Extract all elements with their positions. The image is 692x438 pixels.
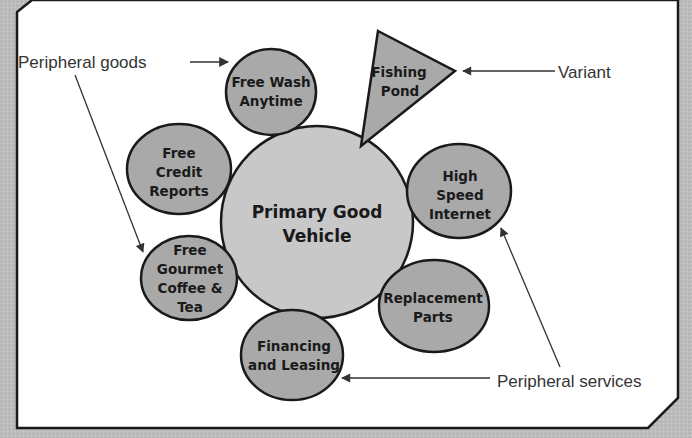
svg-text:and Leasing: and Leasing bbox=[248, 357, 340, 373]
svg-text:Pond: Pond bbox=[381, 83, 419, 99]
high-speed-internet-node: High Speed Internet bbox=[407, 144, 511, 238]
svg-text:Free: Free bbox=[173, 242, 206, 258]
replacement-parts-node: Replacement Parts bbox=[379, 260, 489, 352]
diagram-canvas: Primary Good Vehicle Free Wash Anytime F… bbox=[0, 0, 692, 438]
svg-text:Fishing: Fishing bbox=[371, 64, 426, 80]
svg-text:Parts: Parts bbox=[413, 309, 453, 325]
variant-label: Variant bbox=[558, 63, 611, 82]
svg-text:Gourmet: Gourmet bbox=[157, 261, 224, 277]
svg-text:Anytime: Anytime bbox=[239, 93, 302, 109]
svg-text:Speed: Speed bbox=[436, 187, 483, 203]
financing-leasing-node: Financing and Leasing bbox=[241, 310, 343, 400]
svg-text:Financing: Financing bbox=[257, 338, 331, 354]
svg-text:Internet: Internet bbox=[429, 206, 492, 222]
svg-text:Tea: Tea bbox=[177, 299, 203, 315]
center-line-2: Vehicle bbox=[282, 226, 351, 246]
peripheral-services-label: Peripheral services bbox=[497, 372, 642, 391]
center-line-1: Primary Good bbox=[252, 202, 383, 222]
peripheral-goods-label: Peripheral goods bbox=[18, 53, 147, 72]
free-coffee-tea-node: Free Gourmet Coffee & Tea bbox=[141, 236, 237, 320]
svg-text:Primary Good: Primary Good bbox=[252, 202, 383, 222]
svg-text:Credit: Credit bbox=[156, 164, 203, 180]
free-wash-node: Free Wash Anytime bbox=[226, 49, 316, 135]
svg-text:Vehicle: Vehicle bbox=[282, 226, 351, 246]
free-credit-reports-node: Free Credit Reports bbox=[127, 124, 231, 214]
svg-text:Coffee &: Coffee & bbox=[158, 280, 223, 296]
svg-text:Free Wash: Free Wash bbox=[231, 74, 310, 90]
svg-text:High: High bbox=[442, 168, 477, 184]
svg-text:Replacement: Replacement bbox=[383, 290, 483, 306]
svg-text:Reports: Reports bbox=[149, 183, 209, 199]
svg-text:Free: Free bbox=[162, 145, 195, 161]
